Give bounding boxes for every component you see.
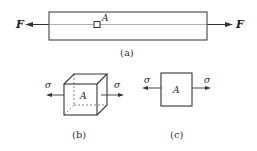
cube-right-face: [97, 74, 107, 115]
force-right-label: F: [235, 18, 245, 31]
element-label: A: [172, 85, 180, 95]
stress-right-label: σ: [114, 80, 121, 90]
stress-diagram: F F A (a) σ σ A (b) σ σ A (c): [0, 0, 257, 151]
stress-left-arrowhead-icon: [142, 86, 148, 90]
stress-left-label: σ: [144, 75, 151, 85]
caption-a: (a): [120, 47, 134, 58]
panel-b: σ σ A (b): [45, 74, 124, 140]
stress-right-arrowhead-icon: [205, 86, 211, 90]
stress-left-arrowhead-icon: [46, 93, 52, 97]
caption-c: (c): [170, 129, 184, 140]
caption-b: (b): [72, 129, 86, 140]
hidden-edge-depth: [64, 105, 74, 115]
arrowhead-right-icon: [225, 22, 233, 27]
point-a-label: A: [101, 13, 109, 23]
force-left-label: F: [15, 18, 25, 31]
bar: [49, 12, 207, 40]
panel-a: F F A (a): [15, 12, 245, 58]
arrowhead-left-icon: [25, 22, 33, 27]
stress-right-label: σ: [204, 75, 211, 85]
stress-left-label: σ: [45, 80, 52, 90]
point-a-square: [94, 22, 100, 28]
stress-right-arrowhead-icon: [118, 93, 124, 97]
element-label: A: [79, 91, 87, 101]
cube-top-face: [64, 74, 107, 84]
panel-c: σ σ A (c): [142, 73, 211, 140]
